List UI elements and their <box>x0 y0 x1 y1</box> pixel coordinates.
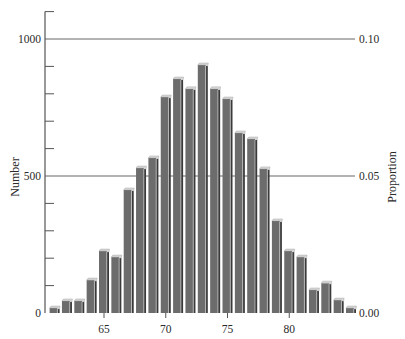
bar-face <box>50 308 58 313</box>
bar-face <box>198 65 206 313</box>
y-axis-title-left: Number <box>8 157 22 196</box>
y-axis-title-right: Proportion <box>385 151 399 202</box>
histogram-bar <box>346 306 357 313</box>
right-tick-label: 0.05 <box>359 170 379 182</box>
histogram-bar <box>50 306 61 313</box>
histogram-bar <box>62 299 72 313</box>
right-tick-label: 0.10 <box>359 33 379 45</box>
bar-face <box>284 251 292 313</box>
bar-side <box>119 258 121 313</box>
bar-face <box>260 169 268 313</box>
x-tick-label: 75 <box>222 323 234 335</box>
bar-face <box>334 300 342 313</box>
histogram-bar <box>247 137 258 313</box>
y-tick-label: 1000 <box>18 33 41 45</box>
histogram-bar <box>223 97 234 313</box>
bar-side <box>354 309 356 313</box>
bar-side <box>243 134 245 313</box>
histogram-bar <box>321 281 332 313</box>
bar-face <box>210 89 218 313</box>
bar-side <box>280 222 282 313</box>
bar-side <box>82 302 84 313</box>
bar-side <box>144 169 146 313</box>
bar-face <box>124 190 132 313</box>
histogram-bar <box>99 249 110 313</box>
bar-side <box>292 252 294 313</box>
histogram-bar <box>185 87 196 313</box>
histogram-bar <box>210 87 221 313</box>
bar-face <box>74 301 82 313</box>
bar-face <box>111 257 119 313</box>
bar-face <box>62 301 70 313</box>
bar-side <box>230 100 232 313</box>
bars <box>50 63 357 313</box>
bar-face <box>321 283 329 313</box>
y-tick-label: 0 <box>35 307 41 319</box>
histogram-bar <box>173 77 184 313</box>
bar-face <box>161 97 169 313</box>
x-tick-label: 80 <box>284 323 296 335</box>
bar-side <box>70 302 72 313</box>
bar-face <box>346 308 354 313</box>
right-tick-label: 0.00 <box>359 307 379 319</box>
histogram-bar <box>111 255 122 313</box>
histogram-bar <box>334 298 345 313</box>
histogram-bar <box>161 95 172 313</box>
bar-face <box>223 99 231 313</box>
bar-side <box>206 66 208 313</box>
bar-side <box>132 191 134 313</box>
bar-face <box>235 133 243 313</box>
bar-face <box>297 257 305 313</box>
histogram-bar <box>74 299 85 313</box>
bar-face <box>272 221 280 313</box>
bar-side <box>317 291 319 313</box>
bar-side <box>169 98 171 313</box>
histogram-bar <box>260 167 271 313</box>
bar-side <box>193 90 195 313</box>
bar-side <box>329 284 331 313</box>
histogram-bar <box>124 188 135 313</box>
bar-side <box>94 281 96 313</box>
histogram-chart: 050010000.000.050.1065707580 Number Prop… <box>0 0 405 339</box>
bar-face <box>173 79 181 313</box>
histogram-bar <box>87 278 98 313</box>
bar-side <box>218 90 220 313</box>
bar-side <box>181 80 183 313</box>
bar-face <box>148 158 156 313</box>
bar-side <box>304 258 306 313</box>
x-tick-label: 70 <box>160 323 172 335</box>
bar-side <box>107 252 109 313</box>
bar-side <box>341 301 343 313</box>
histogram-bar <box>297 255 308 313</box>
bar-side <box>156 159 158 313</box>
histogram-bar <box>309 288 320 313</box>
histogram-bar <box>198 63 209 313</box>
bar-face <box>136 168 144 313</box>
histogram-bar <box>148 156 159 313</box>
bar-face <box>247 139 255 313</box>
bar-side <box>267 170 269 313</box>
histogram-bar <box>284 249 295 313</box>
bar-face <box>309 290 317 313</box>
y-tick-label: 500 <box>24 170 42 182</box>
histogram-bar <box>136 166 147 313</box>
bar-side <box>255 140 257 313</box>
bar-side <box>57 309 59 313</box>
x-tick-label: 65 <box>98 323 110 335</box>
histogram-bar <box>235 131 246 313</box>
bar-face <box>185 89 193 313</box>
histogram-bar <box>272 219 283 313</box>
bar-face <box>87 280 95 313</box>
bar-face <box>99 251 107 313</box>
